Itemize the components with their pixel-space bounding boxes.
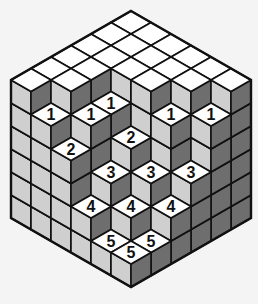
step-number-label: 3 bbox=[147, 164, 156, 181]
step-number-label: 5 bbox=[147, 233, 156, 250]
step-number-label: 2 bbox=[67, 141, 76, 158]
isometric-cube-stack: 1111122333444555 bbox=[0, 0, 258, 304]
step-number-label: 2 bbox=[127, 129, 136, 146]
step-number-label: 5 bbox=[107, 233, 116, 250]
step-number-label: 1 bbox=[47, 106, 56, 123]
step-number-label: 3 bbox=[187, 164, 196, 181]
step-number-label: 4 bbox=[167, 198, 176, 215]
cube-puzzle: 1111122333444555 bbox=[0, 0, 258, 304]
step-number-label: 1 bbox=[167, 106, 176, 123]
step-number-label: 1 bbox=[207, 106, 216, 123]
step-number-label: 1 bbox=[87, 106, 96, 123]
step-number-label: 5 bbox=[127, 244, 136, 261]
step-number-label: 4 bbox=[87, 198, 96, 215]
step-number-label: 3 bbox=[107, 164, 116, 181]
step-number-label: 1 bbox=[107, 95, 116, 112]
step-number-label: 4 bbox=[127, 198, 136, 215]
